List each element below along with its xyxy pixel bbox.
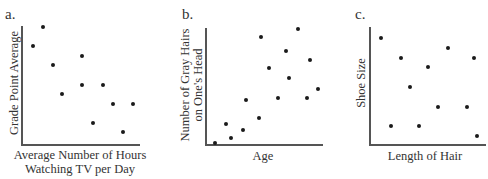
data-point <box>224 122 228 126</box>
x-axis-label-a-line-1: Average Number of Hours <box>14 148 147 162</box>
data-point <box>101 83 105 87</box>
y-axis-label-b-line-2: on One's Head <box>192 48 205 121</box>
data-point <box>267 66 271 70</box>
y-axis-label-b-line-1: Number of Gray Hairs <box>179 29 192 142</box>
data-point <box>121 130 125 134</box>
y-axis-label-a: Grade Point Average <box>8 31 21 135</box>
x-axis-label-a: Average Number of Hours Watching TV per … <box>14 148 147 176</box>
data-point <box>296 27 300 31</box>
data-point <box>284 49 288 53</box>
data-point <box>257 116 261 120</box>
x-axis-c <box>369 144 486 146</box>
panel-label-b: b. <box>182 7 193 22</box>
data-point <box>244 98 248 102</box>
y-axis-a <box>21 26 23 145</box>
data-point <box>41 25 45 29</box>
data-point <box>60 92 64 96</box>
data-point <box>308 58 312 62</box>
y-axis-c <box>369 27 371 145</box>
data-point <box>51 63 55 67</box>
panel-label-c: c. <box>355 7 365 22</box>
data-point <box>305 96 309 100</box>
data-point <box>446 46 450 50</box>
data-point <box>408 85 412 89</box>
y-axis-label-c: Shoe Size <box>355 58 368 108</box>
x-axis-label-c-line-1: Length of Hair <box>388 149 462 163</box>
x-axis-label-b: Age <box>253 149 274 163</box>
x-axis-a <box>21 144 140 146</box>
data-point <box>80 83 84 87</box>
data-point <box>276 96 280 100</box>
y-axis-b <box>205 28 207 145</box>
data-point <box>472 56 476 60</box>
data-point <box>426 65 430 69</box>
scatter-panel-a: a. Grade Point Average Average Number of… <box>0 0 160 179</box>
panel-label-a: a. <box>5 7 15 22</box>
data-point <box>287 76 291 80</box>
data-point <box>91 121 95 125</box>
data-point <box>379 36 383 40</box>
data-point <box>111 102 115 106</box>
data-point <box>475 134 479 138</box>
data-point <box>131 102 135 106</box>
x-axis-label-b-line-1: Age <box>253 149 274 163</box>
data-point <box>31 44 35 48</box>
x-axis-b <box>205 144 323 146</box>
data-point <box>389 124 393 128</box>
data-point <box>417 124 421 128</box>
data-point <box>241 128 245 132</box>
data-point <box>316 87 320 91</box>
data-point <box>213 141 217 145</box>
x-axis-label-c: Length of Hair <box>388 149 462 163</box>
data-point <box>80 54 84 58</box>
data-point <box>399 56 403 60</box>
data-point <box>465 105 469 109</box>
data-point <box>259 35 263 39</box>
data-point <box>436 105 440 109</box>
data-point <box>229 136 233 140</box>
x-axis-label-a-line-2: Watching TV per Day <box>14 162 147 176</box>
